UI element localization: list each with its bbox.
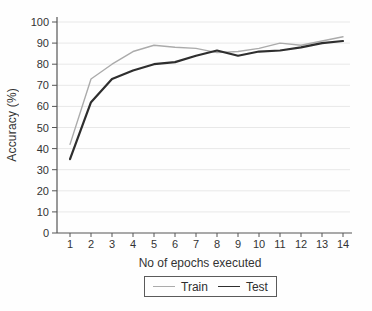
test-line <box>70 41 343 159</box>
x-tick-label: 1 <box>67 238 73 250</box>
y-tick-label: 70 <box>37 79 49 91</box>
x-tick-label: 4 <box>130 238 136 250</box>
x-tick-label: 12 <box>295 238 307 250</box>
x-tick-label: 7 <box>193 238 199 250</box>
x-tick-label: 5 <box>151 238 157 250</box>
y-tick-label: 20 <box>37 185 49 197</box>
train-line-swatch-icon <box>153 286 175 287</box>
x-tick-label: 2 <box>88 238 94 250</box>
x-tick-label: 10 <box>253 238 265 250</box>
x-tick-label: 8 <box>214 238 220 250</box>
legend-train-label: Train <box>181 280 208 294</box>
y-axis-title: Accuracy (%) <box>5 88 19 162</box>
x-tick-label: 9 <box>235 238 241 250</box>
x-axis-title: No of epochs executed <box>100 256 300 270</box>
x-tick-label: 6 <box>172 238 178 250</box>
y-tick-label: 10 <box>37 206 49 218</box>
x-tick-label: 11 <box>274 238 285 250</box>
legend-box: Train Test <box>144 276 277 297</box>
x-tick-label: 3 <box>109 238 115 250</box>
x-tick-label: 14 <box>337 238 349 250</box>
y-tick-label: 40 <box>37 143 49 155</box>
test-line-swatch-icon <box>218 286 240 288</box>
legend-item-train: Train <box>153 280 208 294</box>
y-tick-label: 100 <box>31 16 49 28</box>
legend-item-test: Test <box>218 280 268 294</box>
y-tick-label: 90 <box>37 37 49 49</box>
y-tick-label: 80 <box>37 58 49 70</box>
y-tick-label: 60 <box>37 100 49 112</box>
legend-test-label: Test <box>246 280 268 294</box>
y-tick-label: 30 <box>37 164 49 176</box>
accuracy-vs-epochs-figure: 0102030405060708090100123456789101112131… <box>0 0 372 311</box>
x-tick-label: 13 <box>316 238 328 250</box>
y-tick-label: 0 <box>43 227 49 239</box>
y-tick-label: 50 <box>37 122 49 134</box>
